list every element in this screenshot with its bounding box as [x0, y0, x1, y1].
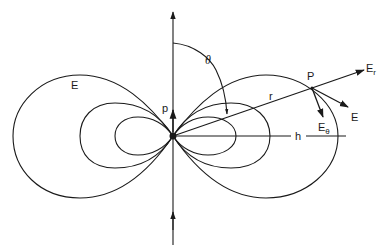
field-line-left-inner — [115, 117, 173, 155]
dipole-diagram: E p θ r P Er E Eθ h — [0, 0, 387, 250]
dipole-label: p — [162, 102, 168, 114]
field-line-left-middle — [80, 103, 173, 168]
theta-component-label: Eθ — [318, 121, 330, 136]
theta-arc — [173, 43, 227, 114]
radial-component-label: Er — [366, 62, 376, 77]
radius-label: r — [269, 90, 273, 102]
radial-component-vector — [312, 70, 364, 88]
angle-label: θ — [205, 53, 211, 67]
radial-component-label-main: E — [366, 62, 373, 74]
theta-component-label-main: E — [318, 121, 325, 133]
field-line-left-outer — [13, 75, 173, 198]
field-label-left: E — [71, 79, 78, 91]
radius-line — [173, 88, 312, 136]
point-p-label: P — [307, 70, 314, 82]
field-vector — [312, 88, 348, 107]
radial-component-label-sub: r — [373, 68, 376, 77]
field-vector-label: E — [351, 111, 358, 123]
dipole-center-dot — [170, 133, 177, 140]
diagram-canvas: E p θ r P Er E Eθ h — [0, 0, 387, 250]
theta-component-label-sub: θ — [325, 127, 330, 136]
point-p-dot — [311, 87, 314, 90]
distance-label: h — [295, 130, 301, 142]
